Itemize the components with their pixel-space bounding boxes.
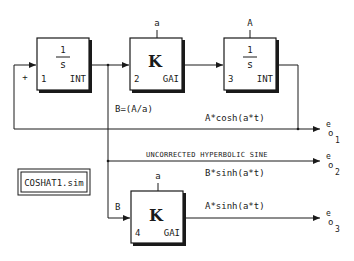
svg-text:2: 2 — [335, 168, 340, 177]
block-3-param: A — [247, 18, 253, 28]
bsinh-label: B*sinh(a*t) — [205, 168, 265, 178]
wire-3-out — [277, 65, 298, 129]
output-e-o-2: e o 2 — [326, 152, 340, 177]
block-4-number: 4 — [135, 228, 140, 238]
branch-wire — [108, 65, 130, 218]
block-3-numerator: 1 — [247, 45, 252, 55]
block-2-type: GAI — [163, 74, 179, 84]
b-input-label: B — [115, 202, 120, 212]
cosh-label: A*cosh(a*t) — [205, 113, 265, 123]
block-3-type: INT — [257, 74, 274, 84]
block-3-number: 3 — [228, 74, 233, 84]
block-1-integrator[interactable]: 1 s 1 INT — [37, 38, 92, 93]
svg-text:o: o — [328, 217, 333, 227]
block-2-gain[interactable]: K 2 GAI a — [130, 18, 185, 93]
plus-sign-label: + — [22, 72, 28, 82]
file-label: COSHAT1.sim — [24, 178, 84, 188]
junction-dot — [107, 64, 110, 67]
block-1-type: INT — [70, 74, 87, 84]
block-3-denominator: s — [247, 59, 253, 70]
output-e-o-1: e o 1 — [326, 120, 340, 145]
svg-text:3: 3 — [335, 225, 340, 234]
block-4-symbol: K — [149, 206, 164, 225]
block-1-number: 1 — [41, 74, 46, 84]
svg-text:o: o — [328, 160, 333, 170]
block-2-param: a — [154, 18, 159, 28]
block-3-integrator[interactable]: 1 s 3 INT A — [224, 18, 279, 93]
asinh-label: A*sinh(a*t) — [205, 201, 265, 211]
block-2-symbol: K — [148, 52, 163, 71]
junction-dot — [107, 160, 110, 163]
block-4-type: GAI — [164, 228, 180, 238]
file-label-box: COSHAT1.sim — [18, 169, 90, 195]
block-4-gain[interactable]: K 4 GAI a — [131, 171, 186, 246]
block-4-param: a — [155, 171, 160, 181]
block-diagram: 1 s 1 INT K 2 GAI a 1 s 3 INT A K 4 GAI … — [0, 0, 354, 261]
junction-dot — [297, 128, 300, 131]
output-e-o-3: e o 3 — [326, 209, 340, 234]
block-1-denominator: s — [60, 59, 66, 70]
block-1-numerator: 1 — [60, 45, 65, 55]
svg-text:1: 1 — [335, 136, 340, 145]
block-2-number: 2 — [134, 74, 139, 84]
uncorrected-label: UNCORRECTED HYPERBOLIC SINE — [146, 151, 268, 159]
b-equation-label: B=(A/a) — [115, 104, 153, 114]
svg-text:o: o — [328, 128, 333, 138]
